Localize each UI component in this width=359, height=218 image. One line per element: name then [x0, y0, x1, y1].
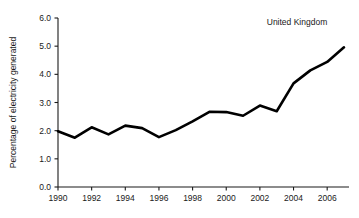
x-tick-label: 2002 [250, 193, 269, 203]
x-tick-label: 2000 [217, 193, 236, 203]
x-tick-label: 2004 [284, 193, 303, 203]
x-tick-label: 1992 [82, 193, 101, 203]
x-tick-label: 1990 [49, 193, 68, 203]
x-tick-label: 1998 [183, 193, 202, 203]
y-tick-label: 6.0 [39, 13, 51, 23]
y-tick-label: 0.0 [39, 182, 51, 192]
y-tick-label: 2.0 [39, 126, 51, 136]
y-axis-tick-labels: 0.01.02.03.04.05.06.0 [39, 13, 51, 192]
chart-container: 0.01.02.03.04.05.06.0 199019921994199619… [0, 0, 359, 218]
data-series-line [58, 47, 344, 137]
y-tick-label: 3.0 [39, 98, 51, 108]
x-axis-tick-labels: 199019921994199619982000200220042006 [49, 193, 337, 203]
y-tick-label: 5.0 [39, 41, 51, 51]
x-tick-label: 1994 [116, 193, 135, 203]
x-tick-label: 1996 [149, 193, 168, 203]
y-tick-label: 1.0 [39, 154, 51, 164]
y-axis-title: Percentage of electricity generated [8, 37, 18, 169]
x-tick-label: 2006 [318, 193, 337, 203]
line-chart: 0.01.02.03.04.05.06.0 199019921994199619… [0, 0, 359, 218]
series-annotation-label: United Kingdom [267, 17, 327, 27]
y-tick-label: 4.0 [39, 69, 51, 79]
